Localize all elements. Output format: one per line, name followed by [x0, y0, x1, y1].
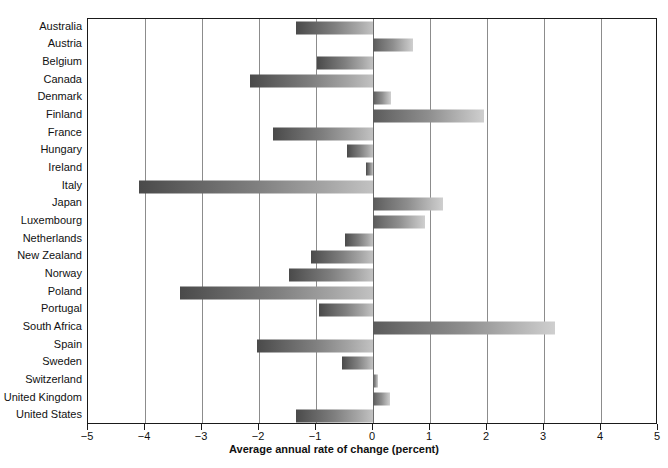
bar: [273, 127, 373, 140]
y-axis-label: New Zealand: [0, 250, 82, 261]
y-axis-label: France: [0, 127, 82, 138]
bar: [296, 410, 373, 423]
bar-row: [88, 178, 656, 196]
bar: [317, 57, 373, 70]
bar: [289, 268, 373, 281]
bar-row: [88, 125, 656, 143]
bar: [319, 304, 373, 317]
y-axis-label: Canada: [0, 74, 82, 85]
y-axis-label: South Africa: [0, 321, 82, 332]
bar-row: [88, 284, 656, 302]
y-axis-label: Netherlands: [0, 233, 82, 244]
y-axis-label: Japan: [0, 197, 82, 208]
bar: [347, 145, 373, 158]
y-axis-label: Portugal: [0, 303, 82, 314]
bar: [373, 215, 425, 228]
bar-row: [88, 372, 656, 390]
bar-row: [88, 196, 656, 214]
bar-row: [88, 390, 656, 408]
bar: [373, 392, 390, 405]
plot-area: [87, 18, 657, 424]
bar-row: [88, 37, 656, 55]
y-axis-label: Spain: [0, 339, 82, 350]
bar-row: [88, 143, 656, 161]
bar: [366, 163, 373, 176]
bar-row: [88, 248, 656, 266]
x-axis-tick-label: 4: [597, 431, 603, 442]
bar-row: [88, 160, 656, 178]
bar: [373, 92, 391, 105]
bar-row: [88, 213, 656, 231]
bar-row: [88, 337, 656, 355]
y-axis-label: United Kingdom: [0, 392, 82, 403]
x-axis-tick-label: 5: [654, 431, 660, 442]
bar: [345, 233, 373, 246]
bar: [180, 286, 373, 299]
bar: [342, 357, 373, 370]
y-axis-label: Hungary: [0, 144, 82, 155]
y-axis-label: Italy: [0, 180, 82, 191]
y-axis-label: United States: [0, 409, 82, 420]
bar-chart: AustraliaAustriaBelgiumCanadaDenmarkFinl…: [0, 0, 668, 468]
x-axis-tick-label: −5: [81, 431, 94, 442]
y-axis-label: Ireland: [0, 162, 82, 173]
y-axis-label: Norway: [0, 268, 82, 279]
bar: [311, 251, 373, 264]
bar: [373, 321, 555, 334]
y-axis-label: Luxembourg: [0, 215, 82, 226]
bar: [373, 198, 443, 211]
bar-row: [88, 90, 656, 108]
bar: [373, 374, 378, 387]
x-axis-tick-label: −2: [252, 431, 265, 442]
bar-row: [88, 107, 656, 125]
x-axis-tick-label: 1: [426, 431, 432, 442]
bar: [250, 74, 373, 87]
y-axis-label: Austria: [0, 38, 82, 49]
bar-row: [88, 319, 656, 337]
x-axis-tick-label: 3: [540, 431, 546, 442]
y-axis-label: Switzerland: [0, 374, 82, 385]
bar-row: [88, 266, 656, 284]
bar-row: [88, 19, 656, 37]
bar-row: [88, 354, 656, 372]
y-axis-label: Poland: [0, 286, 82, 297]
x-axis-tick-label: 2: [483, 431, 489, 442]
bar-row: [88, 231, 656, 249]
bar: [373, 39, 413, 52]
y-axis-category-labels: AustraliaAustriaBelgiumCanadaDenmarkFinl…: [0, 18, 82, 424]
y-axis-label: Finland: [0, 109, 82, 120]
bar-rows: [88, 19, 656, 423]
bar-row: [88, 72, 656, 90]
bar-row: [88, 54, 656, 72]
bar: [139, 180, 373, 193]
y-axis-label: Belgium: [0, 56, 82, 67]
x-axis: −5−4−3−2−1012345: [87, 424, 657, 444]
bar: [257, 339, 373, 352]
y-axis-label: Denmark: [0, 91, 82, 102]
bar: [373, 110, 484, 123]
x-axis-tick-label: −1: [309, 431, 322, 442]
bar-row: [88, 301, 656, 319]
bar: [296, 21, 373, 34]
x-axis-tick-label: −4: [138, 431, 151, 442]
x-axis-title: Average annual rate of change (percent): [0, 443, 668, 455]
x-axis-tick-label: 0: [369, 431, 375, 442]
bar-row: [88, 407, 656, 425]
y-axis-label: Australia: [0, 21, 82, 32]
y-axis-label: Sweden: [0, 356, 82, 367]
x-axis-tick-label: −3: [195, 431, 208, 442]
